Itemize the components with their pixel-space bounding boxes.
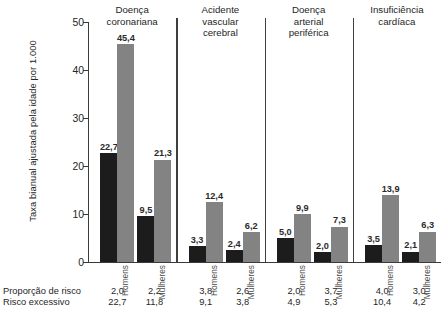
bar-value-label: 2,0	[316, 241, 329, 251]
bar-gray: 6,2	[243, 232, 260, 262]
bar-value-label: 2,4	[228, 239, 241, 249]
table-row: Proporção de risco 2,02,23,82,62,03,74,0…	[0, 286, 443, 297]
group-separator	[265, 18, 266, 262]
plot-area: 01020304050 22,745,49,521,33,312,42,46,2…	[88, 22, 441, 262]
bar-value-label: 12,4	[205, 191, 223, 201]
group-separator	[353, 18, 354, 262]
table-cell: 4,9	[274, 297, 314, 307]
table-row: Risco excessivo 22,711,89,13,84,95,310,4…	[0, 297, 443, 308]
bar-dark: 2,1	[402, 252, 419, 262]
bar-value-label: 9,9	[296, 203, 309, 213]
table-cell: 5,3	[311, 297, 351, 307]
bar-gray: 13,9	[382, 195, 399, 262]
bar-gray: 7,3	[331, 227, 348, 262]
bar-value-label: 2,1	[404, 240, 417, 250]
x-axis-line	[88, 262, 441, 263]
row-label: Proporção de risco	[3, 286, 81, 296]
table-cell: 4,2	[399, 297, 439, 307]
bar-gray: 21,3	[154, 160, 171, 262]
table-cell: 2,0	[274, 286, 314, 296]
y-tick-label: 0	[78, 257, 84, 268]
table-cell: 2,0	[97, 286, 137, 296]
y-tick-label: 20	[72, 161, 84, 172]
bar-value-label: 5,0	[279, 227, 292, 237]
bar-value-label: 45,4	[117, 33, 135, 43]
bar-dark: 5,0	[277, 238, 294, 262]
y-axis-line	[88, 22, 89, 262]
bar-value-label: 9,5	[140, 205, 153, 215]
bar-value-label: 7,3	[333, 215, 346, 225]
bar-value-label: 6,2	[245, 221, 258, 231]
table-cell: 2,6	[223, 286, 263, 296]
table-cell: 9,1	[186, 297, 226, 307]
bar-gray: 12,4	[206, 202, 223, 262]
bar-dark: 3,3	[189, 246, 206, 262]
bar-value-label: 6,3	[421, 220, 434, 230]
y-tick-label: 40	[72, 65, 84, 76]
row-label: Risco excessivo	[3, 297, 70, 307]
group-separator	[176, 18, 177, 262]
table-cell: 2,2	[134, 286, 174, 296]
bar-value-label: 22,7	[100, 142, 118, 152]
y-axis-title: Taxa bianual ajustada pela idade por 1.0…	[22, 0, 44, 262]
bar-dark: 22,7	[100, 153, 117, 262]
y-tick-label: 10	[72, 209, 84, 220]
bar-gray: 45,4	[117, 44, 134, 262]
bar-dark: 2,0	[314, 252, 331, 262]
bar-gray: 9,9	[294, 214, 311, 262]
group-title: Insuficiência cardíaca	[345, 4, 443, 27]
table-cell: 3,8	[186, 286, 226, 296]
bar-value-label: 13,9	[382, 184, 400, 194]
bar-dark: 3,5	[365, 245, 382, 262]
table-cell: 11,8	[134, 297, 174, 307]
table-cell: 4,0	[362, 286, 402, 296]
table-cell: 22,7	[97, 297, 137, 307]
table-cell: 3,8	[223, 297, 263, 307]
bar-dark: 9,5	[137, 216, 154, 262]
bar-value-label: 21,3	[154, 148, 172, 158]
bar-value-label: 3,5	[367, 234, 380, 244]
bar-value-label: 3,3	[191, 235, 204, 245]
y-tick-label: 30	[72, 113, 84, 124]
bar-dark: 2,4	[226, 250, 243, 262]
data-table: Proporção de risco 2,02,23,82,62,03,74,0…	[0, 286, 443, 312]
table-cell: 10,4	[362, 297, 402, 307]
bar-gray: 6,3	[419, 232, 436, 262]
chart-figure: Taxa bianual ajustada pela idade por 1.0…	[0, 0, 443, 322]
table-cell: 3,0	[399, 286, 439, 296]
table-cell: 3,7	[311, 286, 351, 296]
